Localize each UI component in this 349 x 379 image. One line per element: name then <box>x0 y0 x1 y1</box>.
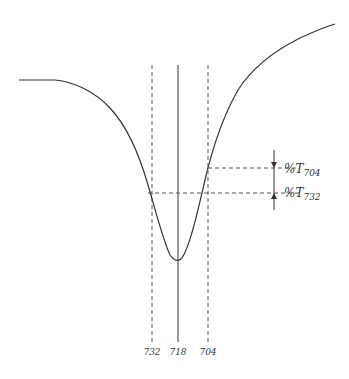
diagram-canvas: %T704 %T732 732 718 704 <box>0 0 349 379</box>
tick-label-704: 704 <box>199 347 216 357</box>
arrow-up-icon <box>271 193 277 199</box>
label-t704: %T704 <box>284 162 321 178</box>
label-t732: %T732 <box>284 186 321 202</box>
arrow-down-icon <box>271 162 277 168</box>
tick-label-732: 732 <box>143 347 160 357</box>
tick-label-718: 718 <box>169 347 186 357</box>
transmittance-curve <box>19 24 335 260</box>
